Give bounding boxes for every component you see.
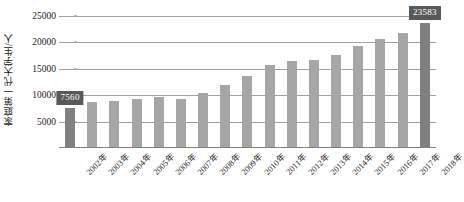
y-axis-tick-label: 20000	[32, 37, 56, 47]
x-axis-tick-label: 2006年	[171, 150, 198, 177]
bar	[398, 33, 408, 148]
x-axis-tick-label: 2016年	[393, 150, 420, 177]
y-axis-tick-label: 5000	[37, 117, 56, 127]
y-axis-tick-labels: 500010000150002000025000	[18, 16, 56, 148]
bar-series	[59, 16, 436, 148]
x-axis-tick-label: 2015年	[371, 150, 398, 177]
bar-slot	[236, 16, 258, 148]
bar	[265, 65, 275, 148]
x-axis-tick-label: 2014年	[349, 150, 376, 177]
y-axis-tick-label: 10000	[32, 90, 56, 100]
bar-slot	[81, 16, 103, 148]
bar	[65, 108, 75, 148]
bar	[198, 93, 208, 148]
x-axis-line	[59, 147, 436, 148]
x-axis-tick-label: 2004年	[127, 150, 154, 177]
bar-slot	[414, 16, 436, 148]
x-axis-tick-label: 2005年	[149, 150, 176, 177]
bar	[309, 60, 319, 148]
bar-slot	[303, 16, 325, 148]
bar-slot	[325, 16, 347, 148]
x-axis-tick-label: 2012年	[304, 150, 331, 177]
bar-slot	[259, 16, 281, 148]
x-axis-tick-label: 2008年	[216, 150, 243, 177]
bar	[87, 102, 97, 148]
x-axis-tick-label: 2017年	[415, 150, 442, 177]
y-axis-tick-label: 25000	[32, 11, 56, 21]
bar	[420, 23, 430, 148]
data-label: 7560	[56, 91, 83, 105]
x-axis-tick-labels: 2002年2003年2004年2005年2006年2007年2008年2009年…	[59, 150, 436, 200]
x-axis-tick-label: 2018年	[438, 150, 464, 177]
bar-slot	[103, 16, 125, 148]
bar-slot	[392, 16, 414, 148]
plot-area: 756023583	[59, 16, 436, 148]
bar-slot	[369, 16, 391, 148]
x-axis-tick-label: 2002年	[83, 150, 110, 177]
bar	[287, 61, 297, 148]
bar	[375, 39, 385, 148]
bar	[109, 101, 119, 148]
bar-slot	[59, 16, 81, 148]
bar-slot	[281, 16, 303, 148]
bar	[353, 46, 363, 148]
bar	[220, 85, 230, 148]
x-axis-tick-label: 2009年	[238, 150, 265, 177]
bar	[242, 76, 252, 148]
bar-slot	[148, 16, 170, 148]
bar-slot	[347, 16, 369, 148]
bar-slot	[214, 16, 236, 148]
bar-slot	[192, 16, 214, 148]
y-axis-tick-label: 15000	[32, 64, 56, 74]
bar	[132, 99, 142, 148]
x-axis-tick-label: 2010年	[260, 150, 287, 177]
x-axis-tick-label: 2011年	[282, 150, 309, 177]
bar-slot	[170, 16, 192, 148]
y-axis-title: 家庭第一代大学生/人	[2, 14, 18, 146]
bar	[176, 99, 186, 148]
x-axis-tick-label: 2007年	[194, 150, 221, 177]
x-axis-tick-label: 2013年	[327, 150, 354, 177]
bar	[154, 97, 164, 148]
bar-slot	[126, 16, 148, 148]
data-label: 23583	[409, 6, 441, 20]
x-axis-tick-label: 2003年	[105, 150, 132, 177]
bar	[331, 55, 341, 148]
